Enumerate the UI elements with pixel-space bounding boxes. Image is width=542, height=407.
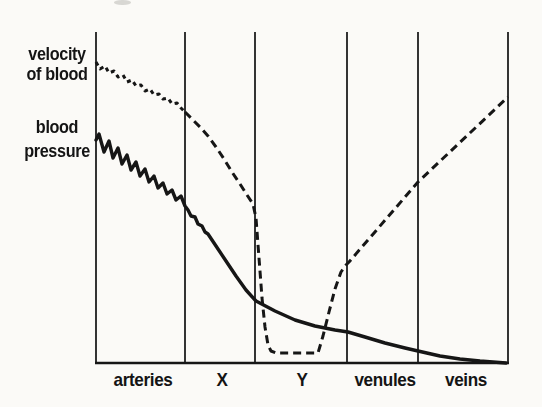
physiology-figure: velocity of blood blood pressure arterie…: [0, 0, 542, 407]
x-axis-label-veins: veins: [445, 369, 487, 391]
x-axis-label-venules: venules: [354, 369, 415, 391]
x-axis-label-arteries: arteries: [114, 369, 173, 391]
x-axis-label-y: Y: [296, 369, 307, 391]
scan-smudge-mark: [114, 0, 131, 5]
velocity-of-blood-curve-seg0: [96, 62, 185, 112]
blood-pressure-curve-seg0: [96, 134, 506, 363]
y-axis-label-velocity-line1: velocity: [6, 44, 109, 64]
x-axis-label-x: X: [216, 369, 227, 391]
y-axis-label-velocity-of-blood: velocity of blood: [6, 44, 109, 84]
y-axis-label-velocity-line2: of blood: [6, 64, 109, 84]
y-axis-label-pressure-line2: pressure: [6, 139, 109, 163]
y-axis-label-pressure-line1: blood: [6, 115, 109, 139]
y-axis-label-blood-pressure: blood pressure: [6, 115, 109, 163]
